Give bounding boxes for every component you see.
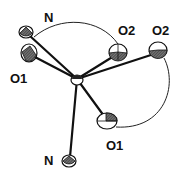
atom-o1-left bbox=[21, 44, 37, 62]
atom-n-bottom bbox=[62, 155, 76, 167]
ortep-diagram: N O1 O2 O2 O1 N bbox=[0, 0, 184, 181]
atom-o1-bottom bbox=[97, 113, 117, 129]
label-n-bottom: N bbox=[44, 153, 53, 168]
bond-o2-mid bbox=[77, 56, 114, 79]
label-o1-bottom: O1 bbox=[106, 138, 123, 153]
label-n-top: N bbox=[44, 10, 53, 25]
label-o2-mid: O2 bbox=[118, 23, 135, 38]
atom-center-metal bbox=[71, 75, 83, 85]
atom-n-top bbox=[19, 26, 33, 38]
molecule-svg: N O1 O2 O2 O1 N bbox=[0, 0, 184, 181]
bonds bbox=[30, 36, 154, 157]
chelate-arc-o2-o1 bbox=[116, 58, 169, 127]
chelate-arc-n-o2 bbox=[34, 22, 118, 44]
label-o2-right: O2 bbox=[152, 23, 169, 38]
bond-o1-bottom bbox=[77, 79, 104, 116]
label-o1-left: O1 bbox=[10, 71, 27, 86]
atom-o2-mid bbox=[109, 44, 127, 61]
bond-n-bottom bbox=[70, 79, 77, 157]
atom-o2-right bbox=[149, 42, 167, 59]
